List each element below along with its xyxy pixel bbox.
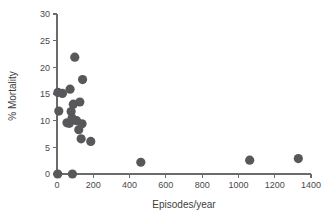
data-points <box>53 53 303 179</box>
data-point <box>77 119 86 128</box>
y-tick-label: 20 <box>40 63 50 73</box>
data-point <box>75 97 84 106</box>
x-tick-label: 200 <box>86 180 101 190</box>
data-point <box>86 137 95 146</box>
data-point <box>245 156 254 165</box>
y-tick-label: 15 <box>40 89 50 99</box>
y-tick-label: 10 <box>40 116 50 126</box>
data-point <box>77 134 86 143</box>
scatter-plot-figure: 051015202530 0200400600800100012001400 E… <box>0 0 336 215</box>
data-point <box>136 158 145 167</box>
data-point <box>65 85 74 94</box>
x-axis: 0200400600800100012001400 <box>54 174 321 190</box>
data-point <box>53 169 62 178</box>
data-point <box>68 169 77 178</box>
y-tick-label: 30 <box>40 9 50 19</box>
plot-canvas: 051015202530 0200400600800100012001400 E… <box>0 0 336 215</box>
x-tick-label: 1400 <box>301 180 321 190</box>
data-point <box>70 53 79 62</box>
y-tick-label: 5 <box>45 143 50 153</box>
x-tick-label: 1000 <box>228 180 248 190</box>
data-point <box>78 75 87 84</box>
x-tick-label: 1200 <box>265 180 285 190</box>
x-tick-label: 0 <box>54 180 59 190</box>
data-point <box>54 106 63 115</box>
y-axis-title: % Mortality <box>7 71 18 120</box>
x-tick-label: 800 <box>195 180 210 190</box>
x-tick-label: 600 <box>158 180 173 190</box>
y-tick-label: 25 <box>40 36 50 46</box>
x-tick-label: 400 <box>122 180 137 190</box>
y-tick-label: 0 <box>45 169 50 179</box>
data-point <box>294 154 303 163</box>
x-axis-title: Episodes/year <box>152 199 216 210</box>
